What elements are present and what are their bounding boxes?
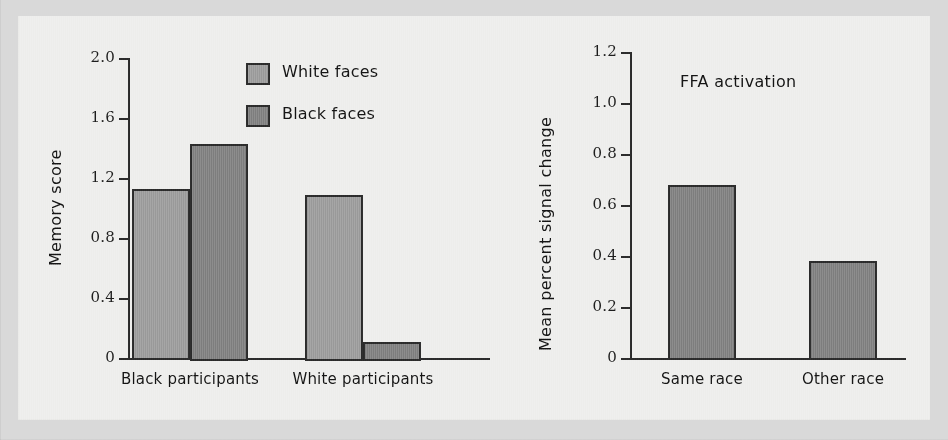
- y-tick-mark: [621, 154, 630, 156]
- y-tick-mark: [621, 205, 630, 207]
- legend-swatch-black-faces: [246, 105, 270, 127]
- bar-ffa-activation-other-race: [809, 261, 877, 360]
- y-tick-label: 0: [573, 348, 617, 366]
- y-tick-label: 0.4: [573, 246, 617, 264]
- chart-title-right: FFA activation: [680, 72, 796, 91]
- y-tick-label: 1.0: [573, 93, 617, 111]
- bar-white-faces-white-participants: [305, 195, 363, 361]
- y-axis-line-left: [128, 58, 130, 360]
- y-tick-label: 1.2: [71, 168, 115, 186]
- y-tick-label: 1.2: [573, 42, 617, 60]
- y-axis-line-right: [630, 52, 632, 360]
- y-tick-mark: [119, 358, 128, 360]
- y-tick-mark: [119, 298, 128, 300]
- y-tick-mark: [621, 52, 630, 54]
- x-category-label: Other race: [733, 370, 948, 388]
- y-axis-label-left: Memory score: [46, 149, 65, 266]
- legend-label-white-faces: White faces: [282, 62, 378, 81]
- y-tick-label: 1.6: [71, 108, 115, 126]
- y-tick-mark: [621, 358, 630, 360]
- y-tick-label: 0: [71, 348, 115, 366]
- y-tick-mark: [119, 58, 128, 60]
- bar-black-faces-white-participants: [363, 342, 421, 361]
- figure-canvas: Memory score 00.40.81.21.62.0 Black part…: [0, 0, 948, 440]
- y-tick-label: 0.8: [573, 144, 617, 162]
- y-tick-mark: [621, 307, 630, 309]
- y-tick-mark: [621, 103, 630, 105]
- y-axis-label-right: Mean percent signal change: [536, 117, 555, 351]
- y-tick-mark: [119, 238, 128, 240]
- y-tick-label: 0.2: [573, 297, 617, 315]
- bar-ffa-activation-same-race: [668, 185, 736, 360]
- y-tick-label: 0.4: [71, 288, 115, 306]
- chart-panel-ffa-activation: FFA activation Mean percent signal chang…: [498, 16, 930, 420]
- figure-paper: Memory score 00.40.81.21.62.0 Black part…: [18, 16, 930, 420]
- bar-white-faces-black-participants: [132, 189, 190, 360]
- y-tick-label: 2.0: [71, 48, 115, 66]
- y-tick-label: 0.8: [71, 228, 115, 246]
- legend-label-black-faces: Black faces: [282, 104, 375, 123]
- y-tick-label: 0.6: [573, 195, 617, 213]
- y-tick-mark: [621, 256, 630, 258]
- y-tick-mark: [119, 118, 128, 120]
- x-category-label: White participants: [253, 370, 473, 388]
- legend-swatch-white-faces: [246, 63, 270, 85]
- bar-black-faces-black-participants: [190, 144, 248, 361]
- y-tick-mark: [119, 178, 128, 180]
- chart-panel-memory-score: Memory score 00.40.81.21.62.0 Black part…: [18, 16, 498, 420]
